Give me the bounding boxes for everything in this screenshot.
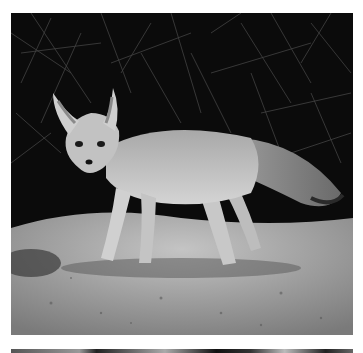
next-photo-strip: [11, 349, 353, 353]
fox-eye: [97, 141, 105, 147]
fox-nose: [86, 160, 93, 165]
fox-eye: [75, 141, 83, 147]
fox-illustration: [11, 13, 353, 335]
fox-photo: [11, 13, 353, 335]
